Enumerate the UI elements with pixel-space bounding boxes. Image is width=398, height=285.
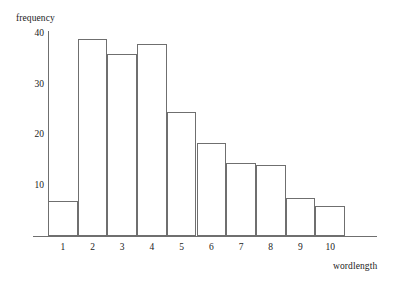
y-tick-label: 20 xyxy=(24,129,44,139)
x-tick-label: 9 xyxy=(286,242,316,252)
y-axis-title: frequency xyxy=(16,13,55,23)
x-tick-label: 5 xyxy=(167,242,197,252)
x-tick-label: 7 xyxy=(226,242,256,252)
x-tick-label: 6 xyxy=(197,242,227,252)
bar xyxy=(137,44,167,236)
bar xyxy=(78,39,108,236)
y-tick-label: 30 xyxy=(24,79,44,89)
bar xyxy=(197,143,227,236)
y-tick-label: 40 xyxy=(24,28,44,38)
bar xyxy=(167,112,197,236)
x-tick-label: 1 xyxy=(48,242,78,252)
x-tick-label: 4 xyxy=(137,242,167,252)
y-tick-label: 10 xyxy=(24,180,44,190)
x-axis-line xyxy=(33,236,377,237)
bar xyxy=(256,165,286,236)
x-tick-label: 10 xyxy=(315,242,345,252)
x-axis-title: wordlength xyxy=(333,261,377,271)
plot-area: 10203040 12345678910 xyxy=(0,0,398,285)
x-tick-label: 8 xyxy=(256,242,286,252)
bar xyxy=(107,54,137,236)
bar xyxy=(48,201,78,236)
x-tick-label: 2 xyxy=(78,242,108,252)
bar xyxy=(315,206,345,236)
bar xyxy=(226,163,256,236)
bar xyxy=(286,198,316,236)
x-tick-label: 3 xyxy=(107,242,137,252)
histogram-chart: 10203040 12345678910 frequency wordlengt… xyxy=(0,0,398,285)
